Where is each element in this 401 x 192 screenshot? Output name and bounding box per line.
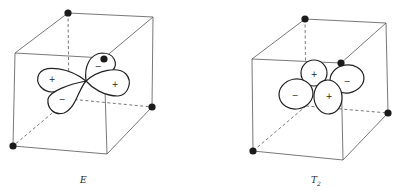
cube-e: + − + − <box>9 9 155 154</box>
sign-minus: − <box>59 95 66 104</box>
panel-label-e: E <box>80 175 87 185</box>
orbital-diagram: + − + − + − − <box>0 0 401 192</box>
hidden-edge <box>253 106 306 151</box>
ligand-ball <box>64 9 71 16</box>
edge <box>68 13 153 17</box>
edge <box>15 13 68 53</box>
sign-plus: + <box>112 80 119 89</box>
cube-t2: + − − + <box>249 15 391 160</box>
label-text: E <box>80 175 87 185</box>
ligand-ball <box>148 103 155 110</box>
label-subscript: 2 <box>317 180 321 187</box>
ligand-ball <box>337 59 344 66</box>
ligand-ball <box>301 15 308 22</box>
sign-minus: − <box>292 91 299 100</box>
ligand-ball <box>100 55 107 62</box>
edge <box>341 23 386 63</box>
edge <box>152 17 153 107</box>
ligand-ball <box>249 147 256 154</box>
orbital-t2: + − − + <box>277 60 367 115</box>
orbital-e: + − + − <box>38 53 130 114</box>
sign-minus: − <box>344 77 351 86</box>
edge <box>305 19 386 23</box>
sign-minus: − <box>95 62 102 71</box>
edge <box>386 23 388 113</box>
sign-plus: + <box>49 75 56 84</box>
sign-plus: + <box>326 92 333 101</box>
edge <box>107 107 152 154</box>
ligand-ball <box>9 142 16 149</box>
hidden-edge <box>69 99 152 107</box>
panel-label-t2: T2 <box>311 175 321 187</box>
edge <box>252 19 305 59</box>
edge <box>104 17 153 58</box>
edge <box>343 113 388 160</box>
sign-plus: + <box>311 70 318 79</box>
ligand-ball <box>384 109 391 116</box>
